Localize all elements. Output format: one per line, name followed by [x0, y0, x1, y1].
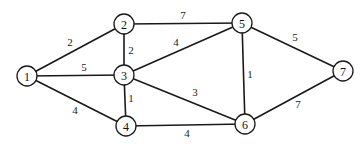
edge-1-4	[27, 76, 126, 126]
edge-weight-2-3: 2	[128, 44, 134, 56]
edge-weight-3-6: 3	[192, 86, 198, 98]
node-2: 2	[114, 14, 134, 34]
node-label: 4	[123, 120, 129, 134]
node-label: 2	[121, 18, 127, 32]
node-1: 1	[17, 66, 37, 86]
edge-3-5	[124, 23, 242, 75]
edge-weight-1-3: 5	[81, 61, 87, 73]
nodes: 1234567	[17, 13, 353, 136]
edge-weight-6-7: 7	[295, 98, 301, 110]
node-7: 7	[333, 61, 353, 81]
node-label: 5	[239, 17, 245, 31]
edge-weight-3-4: 1	[128, 92, 134, 104]
edge-4-6	[126, 124, 245, 126]
edge-1-2	[27, 24, 124, 76]
edge-5-6	[242, 23, 245, 124]
node-4: 4	[116, 116, 136, 136]
node-6: 6	[235, 114, 255, 134]
edge-weight-5-7: 5	[292, 31, 298, 43]
edge-weight-1-4: 4	[72, 104, 78, 116]
node-label: 1	[24, 70, 30, 84]
edge-weight-5-6: 1	[247, 68, 253, 80]
edge-weight-4-6: 4	[184, 127, 190, 139]
weighted-graph: 254274134157 1234567	[0, 0, 364, 144]
node-label: 6	[242, 118, 248, 132]
node-label: 7	[340, 65, 346, 79]
node-3: 3	[114, 65, 134, 85]
node-5: 5	[232, 13, 252, 33]
edge-6-7	[245, 71, 343, 124]
edge-3-6	[124, 75, 245, 124]
edge-1-3	[27, 75, 124, 76]
edge-weight-2-5: 7	[180, 9, 186, 21]
edge-weight-3-5: 4	[173, 36, 179, 48]
edge-2-5	[124, 23, 242, 24]
edge-weights: 254274134157	[67, 9, 301, 139]
edge-weight-1-2: 2	[67, 36, 73, 48]
node-label: 3	[121, 69, 127, 83]
